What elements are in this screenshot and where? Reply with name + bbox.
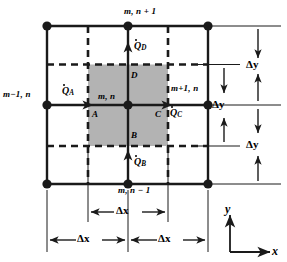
flux-label-qb: QB	[134, 157, 146, 168]
flux-subscript-qc: C	[177, 111, 182, 119]
flux-subscript-qd: D	[141, 44, 146, 52]
node-bottom-left	[42, 179, 51, 188]
corner-label-b: B	[131, 131, 137, 140]
nodal-network-diagram	[0, 0, 287, 262]
node-middle-center	[123, 100, 132, 109]
flux-symbol-qd: Q	[134, 41, 141, 51]
flux-subscript-qa: A	[69, 89, 74, 97]
axis-label-y: y	[225, 203, 230, 215]
flux-subscript-qb: B	[141, 160, 146, 168]
flux-label-qc: QC	[170, 108, 182, 119]
dimension-label-dy-top: Δy	[246, 59, 258, 70]
node-top-center	[123, 21, 132, 30]
flux-symbol-qb: Q	[134, 157, 141, 167]
corner-label-a: A	[92, 110, 98, 119]
axis-label-x: x	[272, 245, 278, 257]
dimension-label-dy-mid: Δy	[212, 99, 224, 110]
corner-label-c: C	[155, 110, 161, 119]
flux-symbol-qc: Q	[170, 108, 177, 118]
coordinate-axes	[230, 215, 270, 252]
flux-symbol-qa: Q	[62, 86, 69, 96]
figure-container: m, n + 1 m−1, n m+1, n m, n − 1 m, n A B…	[0, 0, 287, 262]
node-label-bottom-center: m, n − 1	[118, 186, 151, 195]
node-middle-left	[42, 100, 51, 109]
node-label-right-center: m+1, n	[171, 84, 198, 93]
node-top-left	[42, 21, 51, 30]
node-label-top-center: m, n + 1	[124, 7, 156, 16]
dimension-label-dx-right: Δx	[158, 233, 170, 244]
dimension-label-dx-cv: Δx	[116, 205, 128, 216]
node-label-center: m, n	[98, 92, 115, 101]
dimension-label-dy-bottom: Δy	[246, 139, 258, 150]
dimension-label-dx-left: Δx	[77, 233, 89, 244]
corner-label-d: D	[131, 71, 138, 80]
flux-label-qd: QD	[134, 41, 146, 52]
node-label-left-center: m−1, n	[3, 90, 31, 99]
flux-label-qa: QA	[62, 86, 74, 97]
